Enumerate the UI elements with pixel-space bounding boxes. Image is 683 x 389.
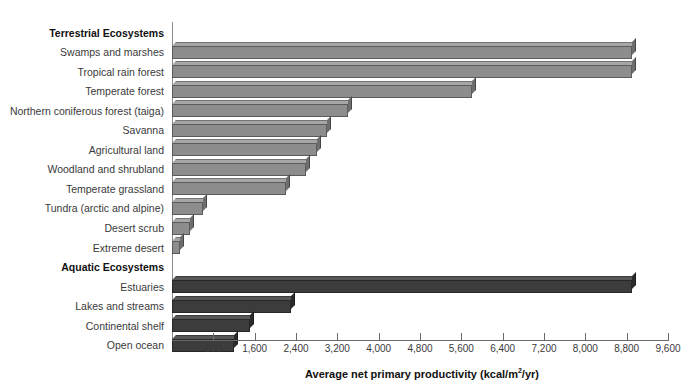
- x-axis-tick-label: 800: [205, 343, 222, 354]
- x-axis-title: Average net primary productivity (kcal/m…: [172, 368, 672, 380]
- bar-side-face: [472, 77, 476, 94]
- bar: [172, 143, 317, 156]
- category-label: Tundra (arctic and alpine): [0, 202, 164, 214]
- x-axis-tick-label: 6,400: [490, 343, 515, 354]
- bar-front-face: [172, 46, 632, 59]
- bar-front-face: [172, 163, 306, 176]
- x-axis-tick: [503, 333, 504, 340]
- group-heading: Terrestrial Ecosystems: [0, 27, 164, 39]
- bar: [172, 104, 348, 117]
- bar-front-face: [172, 143, 317, 156]
- bar-side-face: [250, 311, 254, 328]
- bar: [172, 222, 190, 235]
- x-axis-tick-label: 8,800: [614, 343, 639, 354]
- category-label: Savanna: [0, 124, 164, 136]
- x-axis-tick: [213, 333, 214, 340]
- x-axis-tick-label: 3,200: [325, 343, 350, 354]
- category-label: Temperate grassland: [0, 183, 164, 195]
- bar-front-face: [172, 124, 327, 137]
- bar-side-face: [203, 194, 207, 211]
- x-axis-tick: [337, 333, 338, 340]
- bar-side-face: [632, 38, 636, 55]
- bar-side-face: [348, 96, 352, 113]
- x-axis-tick: [627, 333, 628, 340]
- bar-side-face: [180, 233, 184, 250]
- x-axis-tick: [379, 333, 380, 340]
- x-axis-tick-label: 5,600: [449, 343, 474, 354]
- bar: [172, 182, 286, 195]
- bar: [172, 280, 632, 293]
- bar-side-face: [286, 174, 290, 191]
- group-heading: Aquatic Ecosystems: [0, 261, 164, 273]
- category-label: Northern coniferous forest (taiga): [0, 105, 164, 117]
- bar: [172, 65, 632, 78]
- bar: [172, 163, 306, 176]
- bar-front-face: [172, 85, 472, 98]
- bar: [172, 241, 180, 254]
- category-label: Open ocean: [0, 339, 164, 351]
- bar: [172, 202, 203, 215]
- x-axis-title-before: Average net primary productivity (kcal/m: [305, 368, 518, 380]
- category-label: Tropical rain forest: [0, 66, 164, 78]
- x-axis-tick-label: 4,000: [366, 343, 391, 354]
- bar-front-face: [172, 202, 203, 215]
- category-label: Continental shelf: [0, 320, 164, 332]
- bar-side-face: [632, 57, 636, 74]
- x-axis-tick-label: 9,600: [655, 343, 680, 354]
- category-label: Lakes and streams: [0, 300, 164, 312]
- category-label: Swamps and marshes: [0, 46, 164, 58]
- x-axis-tick: [585, 333, 586, 340]
- x-axis-tick: [544, 333, 545, 340]
- bar-front-face: [172, 222, 190, 235]
- x-axis-tick: [668, 333, 669, 340]
- bar-side-face: [327, 116, 331, 133]
- bar-front-face: [172, 280, 632, 293]
- bar-front-face: [172, 300, 291, 313]
- x-axis-tick-label: 2,400: [283, 343, 308, 354]
- x-axis-title-after: /yr): [522, 368, 539, 380]
- category-label: Desert scrub: [0, 222, 164, 234]
- bar: [172, 46, 632, 59]
- x-axis-line: [172, 340, 669, 341]
- category-label-column: Terrestrial EcosystemsSwamps and marshes…: [0, 0, 168, 340]
- x-axis-tick: [461, 333, 462, 340]
- category-label: Extreme desert: [0, 242, 164, 254]
- bar-side-face: [632, 272, 636, 289]
- bar-front-face: [172, 182, 286, 195]
- x-axis-tick-label: 4,800: [407, 343, 432, 354]
- x-axis-tick-label: 1,600: [242, 343, 267, 354]
- bar-side-face: [317, 135, 321, 152]
- category-label: Agricultural land: [0, 144, 164, 156]
- bar-chart: Terrestrial EcosystemsSwamps and marshes…: [0, 0, 683, 389]
- x-axis-tick: [255, 333, 256, 340]
- bar-side-face: [306, 155, 310, 172]
- bar-side-face: [291, 292, 295, 309]
- bar-front-face: [172, 241, 180, 254]
- bar: [172, 85, 472, 98]
- x-axis-tick-label: 7,200: [531, 343, 556, 354]
- category-label: Estuaries: [0, 281, 164, 293]
- plot-area: [172, 0, 683, 340]
- category-label: Woodland and shrubland: [0, 163, 164, 175]
- bar-front-face: [172, 65, 632, 78]
- bar: [172, 124, 327, 137]
- bar-front-face: [172, 104, 348, 117]
- bar: [172, 300, 291, 313]
- x-axis-tick: [296, 333, 297, 340]
- bar-side-face: [190, 214, 194, 231]
- category-label: Temperate forest: [0, 85, 164, 97]
- x-axis-tick-label: 8,000: [573, 343, 598, 354]
- x-axis-tick: [420, 333, 421, 340]
